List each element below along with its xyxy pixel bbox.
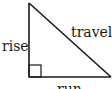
run-label: run xyxy=(57,81,82,89)
right-angle-marker-icon xyxy=(29,65,41,77)
travel-label: travel xyxy=(71,24,112,40)
triangle xyxy=(29,3,111,77)
rise-label: rise xyxy=(2,38,29,54)
right-triangle-diagram: rise travel run xyxy=(0,0,112,89)
